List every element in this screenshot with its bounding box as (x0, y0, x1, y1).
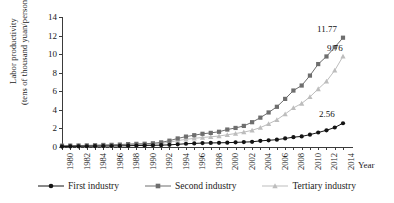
data-point (176, 136, 180, 140)
data-point (184, 142, 188, 146)
x-tick-label-1990: 1990 (148, 153, 158, 170)
data-point (324, 128, 328, 132)
x-tick-label-1982: 1982 (82, 153, 92, 170)
annotation-2.56: 2.56 (319, 109, 335, 119)
data-point (266, 121, 271, 126)
y-tick-label: 4 (53, 105, 58, 115)
data-point (242, 124, 246, 128)
data-point (332, 68, 337, 73)
y-tick-label: 12 (48, 31, 57, 41)
data-point (167, 143, 171, 147)
series-layer (62, 17, 353, 148)
data-point (192, 133, 196, 137)
data-point (250, 140, 254, 144)
legend-marker-triangle-icon (262, 181, 288, 191)
data-point (76, 144, 80, 148)
series-line (62, 38, 343, 146)
data-point (308, 73, 312, 77)
data-point (250, 120, 254, 124)
x-tick-label-2002: 2002 (247, 153, 257, 170)
data-point (283, 97, 287, 101)
data-point (291, 135, 295, 139)
y-tick-label: 6 (53, 86, 58, 96)
data-point (93, 144, 97, 148)
data-point (274, 117, 279, 122)
data-point (267, 138, 271, 142)
legend-label: Tertiary industry (292, 181, 355, 191)
annotation-9.76: 9.76 (327, 43, 343, 53)
y-axis-title-line-2: (tens of thousand yuan/person) (19, 0, 30, 121)
data-point (109, 144, 113, 148)
data-point (300, 134, 304, 138)
x-tick-label-2004: 2004 (263, 153, 273, 170)
data-point (258, 139, 262, 143)
data-point (143, 143, 147, 147)
data-point (316, 62, 320, 66)
data-point (258, 116, 262, 120)
legend-item-first-industry[interactable]: First industry (38, 181, 119, 191)
data-point (68, 144, 72, 148)
y-axis-title: Labor productivity (tens of thousand yua… (8, 0, 38, 121)
data-point (341, 121, 345, 125)
plot-area: 02468101214 1980198219841986198819901992… (62, 17, 352, 147)
data-point (134, 143, 138, 147)
y-tick-label: 10 (48, 49, 57, 59)
y-tick-label: 0 (53, 142, 58, 152)
legend-item-second-industry[interactable]: Second industry (145, 181, 236, 191)
data-point (192, 141, 196, 145)
y-tick-label: 14 (48, 12, 57, 22)
y-axis-title-line-1: Labor productivity (8, 0, 19, 121)
x-tick-label-2010: 2010 (313, 153, 323, 170)
x-tick-label-2006: 2006 (280, 153, 290, 170)
x-axis-title: Year (358, 160, 375, 170)
chart-legend: First industrySecond industryTertiary in… (0, 181, 394, 191)
x-tick-label-1994: 1994 (181, 153, 191, 170)
data-point (291, 105, 296, 110)
data-point (340, 54, 345, 59)
legend-label: Second industry (175, 181, 236, 191)
data-point (225, 127, 229, 131)
data-point (217, 141, 221, 145)
data-point (217, 130, 221, 134)
x-tick-label-1998: 1998 (214, 153, 224, 170)
x-tick-label-1988: 1988 (131, 153, 141, 170)
data-point (151, 143, 155, 147)
data-point (291, 88, 295, 92)
data-point (308, 133, 312, 137)
data-point (200, 132, 204, 136)
series-second-industry (60, 36, 345, 148)
data-point (85, 144, 89, 148)
y-tick-label: 2 (53, 123, 58, 133)
x-tick-label-1992: 1992 (164, 153, 174, 170)
data-point (225, 141, 229, 145)
x-tick-label-1986: 1986 (115, 153, 125, 170)
chart-container: Labor productivity (tens of thousand yua… (0, 0, 394, 203)
legend-marker-circle-icon (38, 181, 64, 191)
data-point (300, 83, 304, 87)
data-point (275, 138, 279, 142)
data-point (209, 131, 213, 135)
data-point (126, 144, 130, 148)
data-point (209, 141, 213, 145)
x-tick-label-1984: 1984 (98, 153, 108, 170)
x-tick-label-2014: 2014 (346, 153, 356, 170)
data-point (101, 144, 105, 148)
x-tick-label-2000: 2000 (230, 153, 240, 170)
x-tick-label-1996: 1996 (197, 153, 207, 170)
x-tick-label-2012: 2012 (329, 153, 339, 170)
data-point (316, 130, 320, 134)
data-point (242, 140, 246, 144)
x-tick-label-1980: 1980 (65, 153, 75, 170)
data-point (233, 126, 237, 130)
data-point (233, 140, 237, 144)
y-tick-label: 8 (53, 68, 58, 78)
data-point (258, 125, 263, 130)
data-point (60, 144, 64, 148)
data-point (341, 36, 345, 40)
data-point (324, 54, 328, 58)
x-tick-label-2008: 2008 (296, 153, 306, 170)
data-point (267, 110, 271, 114)
legend-item-tertiary-industry[interactable]: Tertiary industry (262, 181, 355, 191)
annotation-11.77: 11.77 (317, 24, 337, 34)
data-point (200, 141, 204, 145)
